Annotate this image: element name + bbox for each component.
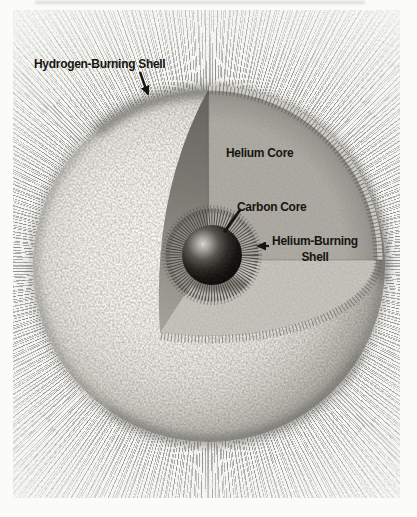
label-helium-burning-shell: Helium-Burning Shell <box>265 234 365 265</box>
label-hydrogen-burning-shell: Hydrogen-Burning Shell <box>34 57 165 73</box>
label-helium-burning-line2: Shell <box>301 250 328 264</box>
star-diagram: Hydrogen-Burning Shell Helium Core Carbo… <box>13 10 400 498</box>
label-helium-core: Helium Core <box>226 146 293 162</box>
page-edge-smudge <box>35 1 365 4</box>
label-helium-burning-line1: Helium-Burning <box>272 234 358 248</box>
page: Hydrogen-Burning Shell Helium Core Carbo… <box>0 0 417 517</box>
label-carbon-core: Carbon Core <box>237 200 306 216</box>
